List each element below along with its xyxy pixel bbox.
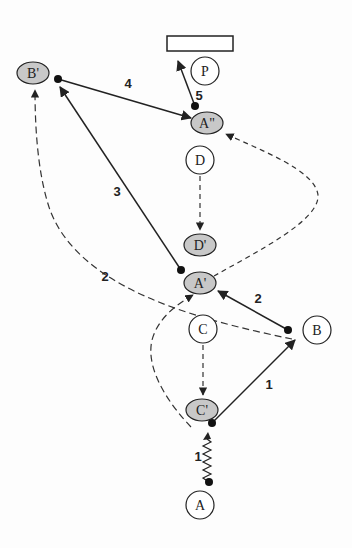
origin-dot-bprime: [54, 75, 62, 83]
node-c: C: [189, 315, 217, 343]
node-d-prime-label: D': [194, 238, 207, 253]
edge-label-2-dashed: 2: [101, 269, 108, 284]
edge-label-1-spring: 1: [194, 449, 201, 464]
edge-label-3: 3: [113, 184, 120, 199]
edge-label-2-solid: 2: [254, 291, 261, 306]
node-d: D: [186, 146, 214, 174]
origin-dot-b: [284, 326, 292, 334]
edge-1-spring: [203, 439, 211, 482]
node-a-double-prime: A": [191, 112, 223, 134]
edge-label-5: 5: [195, 88, 202, 103]
edge-label-1-solid: 1: [265, 377, 272, 392]
node-b: B: [303, 316, 331, 344]
edge-3-arrow: [60, 87, 181, 270]
diagram-svg: P B' A" D D' A' C B C' A 4 5 3 2 2 1 1: [0, 0, 352, 548]
node-a: A: [186, 491, 214, 519]
node-a-prime-label: A': [194, 276, 207, 291]
node-d-label: D: [195, 153, 205, 168]
node-c-label: C: [198, 322, 207, 337]
node-a-double-prime-label: A": [199, 116, 215, 131]
edge-1-solid-arrow: [212, 340, 295, 423]
origin-dot-adoubleprime: [191, 102, 199, 110]
node-p-label: P: [201, 64, 209, 79]
node-b-label: B: [312, 323, 321, 338]
node-p: P: [191, 57, 219, 85]
target-rectangle: [167, 36, 233, 51]
node-c-prime: C': [186, 399, 218, 421]
node-a-prime: A': [184, 272, 216, 294]
node-b-prime-label: B': [27, 66, 39, 81]
node-d-prime: D': [184, 234, 216, 256]
node-a-label: A: [195, 498, 206, 513]
spring-arrowhead: [203, 432, 211, 440]
diagram-canvas: P B' A" D D' A' C B C' A 4 5 3 2 2 1 1: [0, 0, 352, 548]
node-c-prime-label: C': [196, 403, 208, 418]
edge-2-solid-arrow: [218, 291, 288, 330]
edge-label-4: 4: [124, 76, 132, 91]
origin-dot-a: [205, 478, 213, 486]
node-b-prime: B': [17, 62, 49, 84]
edge-aprime-to-adoubleprime-dashed: [214, 134, 318, 276]
origin-dot-aprime: [177, 266, 185, 274]
